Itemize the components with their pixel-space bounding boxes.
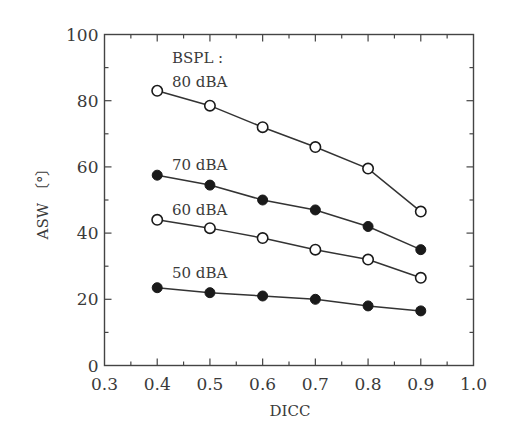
open-circle-marker (416, 206, 426, 216)
line-chart: 0.30.40.50.60.70.80.91.0 020406080100 DI… (0, 0, 517, 447)
series-80dba (152, 86, 426, 217)
series-label-70dba: 70 dBA (172, 156, 227, 174)
filled-circle-marker (258, 195, 268, 205)
filled-circle-marker (152, 283, 162, 293)
series-label-60dba: 60 dBA (172, 201, 227, 219)
x-tick-label: 0.3 (91, 374, 118, 394)
filled-circle-marker (310, 294, 320, 304)
filled-circle-marker (363, 301, 373, 311)
series-50dba (152, 283, 426, 316)
y-tick-label: 20 (77, 289, 99, 309)
series-label-80dba: 80 dBA (172, 73, 227, 91)
y-tick-label: 100 (66, 25, 98, 45)
filled-circle-marker (152, 170, 162, 180)
y-tick-label: 0 (88, 356, 99, 376)
x-tick-label: 0.6 (249, 374, 276, 394)
plot-frame (105, 35, 474, 366)
open-circle-marker (257, 233, 267, 243)
filled-circle-marker (258, 291, 268, 301)
filled-circle-marker (363, 221, 373, 231)
series-line (157, 288, 421, 311)
filled-circle-marker (416, 306, 426, 316)
series-label-50dba: 50 dBA (172, 264, 227, 282)
open-circle-marker (152, 86, 162, 96)
y-axis-label: ASW 〔°〕 (34, 161, 52, 241)
filled-circle-marker (416, 245, 426, 255)
open-circle-marker (205, 223, 215, 233)
open-circle-marker (416, 273, 426, 283)
x-tick-labels: 0.30.40.50.60.70.80.91.0 (91, 374, 487, 394)
open-circle-marker (363, 254, 373, 264)
open-circle-marker (310, 244, 320, 254)
filled-circle-marker (205, 288, 215, 298)
y-tick-label: 40 (77, 223, 99, 243)
x-tick-label: 0.9 (407, 374, 434, 394)
x-tick-label: 0.7 (302, 374, 329, 394)
x-tick-label: 0.8 (355, 374, 382, 394)
x-tick-label: 0.5 (196, 374, 223, 394)
open-circle-marker (152, 215, 162, 225)
x-axis-label: DICC (270, 402, 311, 420)
open-circle-marker (310, 142, 320, 152)
x-tick-label: 1.0 (460, 374, 487, 394)
open-circle-marker (205, 100, 215, 110)
open-circle-marker (363, 163, 373, 173)
y-tick-labels: 020406080100 (66, 25, 98, 376)
y-tick-label: 80 (77, 91, 99, 111)
filled-circle-marker (205, 180, 215, 190)
filled-circle-marker (310, 205, 320, 215)
chart: 0.30.40.50.60.70.80.91.0 020406080100 DI… (0, 0, 517, 447)
series-line (157, 91, 421, 212)
axis-ticks (105, 35, 474, 366)
x-tick-label: 0.4 (144, 374, 171, 394)
y-tick-label: 60 (77, 157, 99, 177)
open-circle-marker (257, 122, 267, 132)
legend-title: BSPL : (172, 49, 223, 67)
